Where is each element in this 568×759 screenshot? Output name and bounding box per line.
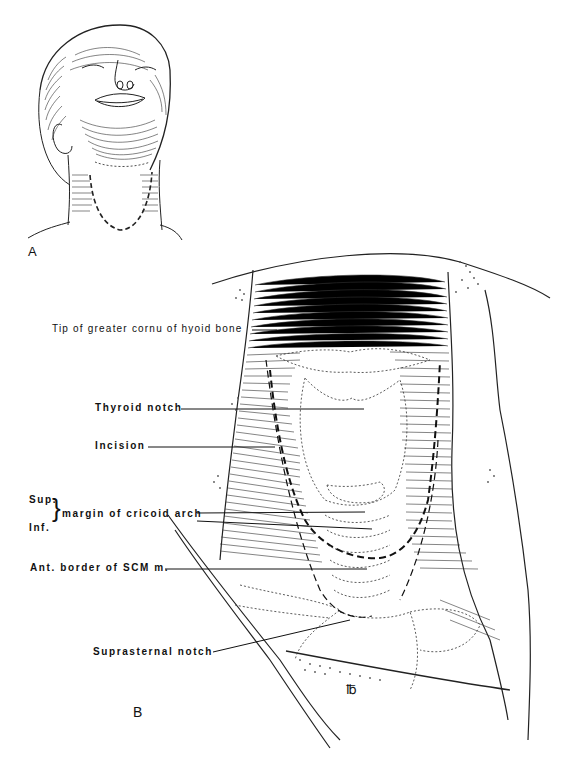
- label-incision: Incision: [95, 440, 146, 451]
- incision-line-b: [270, 362, 440, 558]
- hyoid-outline: [276, 349, 430, 373]
- label-hyoid: Tip of greater cornu of hyoid bone: [52, 323, 243, 334]
- label-scm: Ant. border of SCM m.: [30, 562, 169, 573]
- label-suprasternal: Suprasternal notch: [93, 646, 213, 657]
- label-cricoid: margin of cricoid arch: [62, 508, 202, 519]
- brace: }: [52, 495, 61, 521]
- label-inf: Inf.: [29, 522, 50, 533]
- thyroid-cartilage-outline: [300, 378, 407, 505]
- leader-cricoid-sup: [197, 512, 365, 513]
- panel-b-label: B: [133, 704, 142, 720]
- label-thyroid-notch: Thyroid notch: [95, 402, 182, 413]
- leader-suprasternal: [213, 620, 350, 652]
- artist-signature: ℔: [346, 682, 357, 697]
- panel-b-illustration: [0, 0, 568, 759]
- cricoid-outline: [327, 482, 384, 503]
